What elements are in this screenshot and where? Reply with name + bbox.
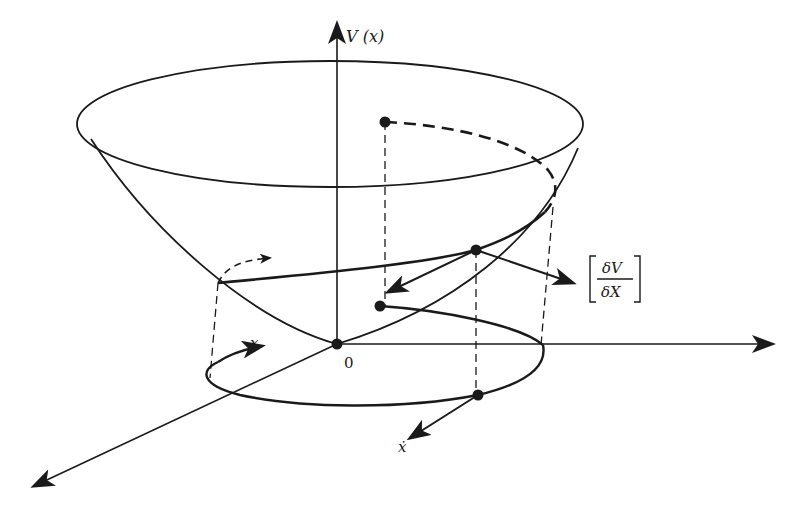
inner-point	[375, 301, 386, 312]
bracket-left	[590, 256, 596, 302]
trajectory-upper-band	[218, 212, 545, 283]
start-point	[380, 117, 391, 128]
x-state-label: x	[250, 334, 259, 352]
gradient-numerator: δV	[602, 259, 624, 277]
surface-trajectory	[218, 122, 555, 345]
bowl-rim	[77, 61, 583, 187]
depth-axis	[34, 344, 337, 486]
gradient-arrow	[476, 250, 573, 283]
projected-point	[473, 390, 484, 401]
axes	[34, 24, 772, 486]
origin-point	[332, 339, 343, 350]
state-plane-trajectory	[206, 345, 543, 406]
trajectory-dashed-top	[385, 122, 555, 212]
x-dot-label: ẋ	[398, 438, 407, 456]
gradient-denominator: δX	[601, 283, 622, 301]
lyapunov-bowl	[77, 61, 583, 344]
bowl-left-side	[91, 139, 337, 344]
surface-point	[471, 245, 482, 256]
projection-ellipse	[206, 345, 543, 406]
bracket-right	[634, 256, 640, 302]
lyapunov-diagram: V (x) 0 x ẋ δV δX	[0, 0, 800, 506]
points	[332, 117, 484, 401]
trajectory-lower-band	[380, 306, 543, 345]
origin-label: 0	[344, 354, 354, 372]
v-axis-label: V (x)	[346, 27, 384, 46]
